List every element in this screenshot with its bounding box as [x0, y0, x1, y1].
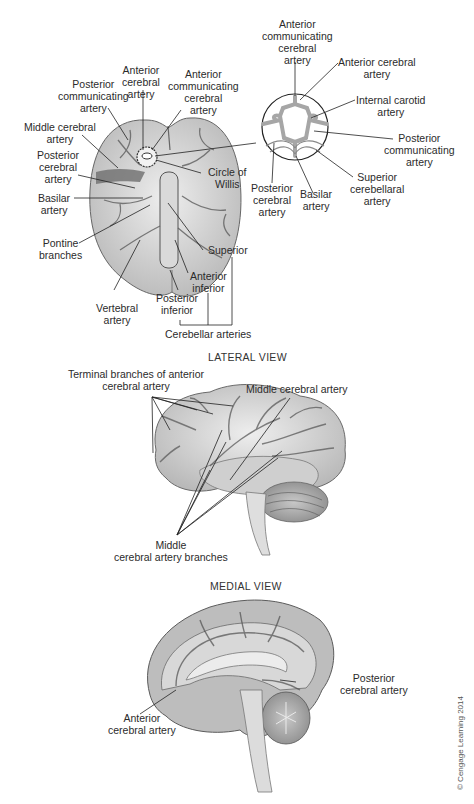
copyright-notice: © Cengage Learning 2014 [456, 696, 465, 790]
lateral-view-title: LATERAL VIEW [208, 351, 287, 363]
label-inset-posterior-cerebral-artery: Posterior cerebral artery [251, 182, 293, 218]
label-inset-internal-carotid-artery: Internal carotid artery [356, 94, 425, 118]
label-inferior-anterior-communicating-cerebral-artery: Anterior communicating cerebral artery [168, 68, 239, 116]
label-superior-cerebellar: Superior [208, 244, 248, 256]
label-inset-anterior-cerebral-artery: Anterior cerebral artery [338, 56, 416, 80]
medial-brain-illustration [148, 600, 334, 792]
label-inset-posterior-communicating-artery: Posterior communicating artery [384, 132, 455, 168]
label-inset-superior-cerebellar-artery: Superior cerebellaral artery [350, 171, 404, 207]
label-inferior-posterior-cerebral-artery: Posterior cerebral artery [37, 149, 79, 185]
label-terminal-branches-anterior-cerebral-artery: Terminal branches of anterior cerebral a… [68, 368, 204, 392]
label-lateral-middle-cerebral-artery: Middle cerebral artery [246, 383, 348, 395]
medial-view-title: MEDIAL VIEW [210, 580, 282, 592]
label-posterior-inferior-cerebellar: Posterior inferior [156, 292, 198, 316]
label-inferior-posterior-communicating-artery: Posterior communicating artery [58, 78, 129, 114]
label-inferior-middle-cerebral-artery: Middle cerebral artery [24, 121, 96, 145]
label-medial-anterior-cerebral-artery: Anterior cerebral artery [108, 712, 176, 736]
label-inset-anterior-communicating-cerebral-artery: Anterior communicating cerebral artery [262, 18, 333, 66]
label-inferior-anterior-cerebral-artery: Anterior cerebral artery [122, 64, 160, 100]
label-inferior-basilar-artery: Basilar artery [38, 192, 70, 216]
label-anterior-inferior-cerebellar: Anterior inferior [190, 270, 227, 294]
label-circle-of-willis: Circle of Willis [208, 166, 247, 190]
label-inferior-pontine-branches: Pontine branches [39, 237, 82, 261]
circle-of-willis-inset [262, 94, 328, 160]
label-middle-cerebral-artery-branches: Middle cerebral artery branches [114, 539, 228, 563]
label-vertebral-artery: Vertebral artery [96, 302, 138, 326]
label-cerebellar-arteries: Cerebellar arteries [165, 328, 251, 340]
label-medial-posterior-cerebral-artery: Posterior cerebral artery [340, 672, 408, 696]
label-inset-basilar-artery: Basilar artery [300, 188, 332, 212]
